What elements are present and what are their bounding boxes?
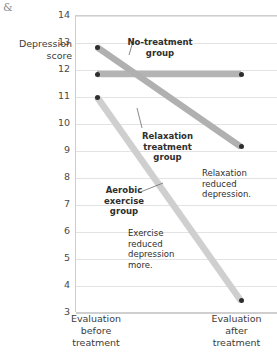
y-axis-tick-label: 4	[44, 280, 70, 290]
annotation-exercise-note: Exercise reduced depression more.	[128, 228, 198, 270]
annotation-aerobic-line-1: Aerobic	[93, 185, 155, 196]
y-axis-tick-label: 11	[44, 91, 70, 101]
chart-figure: & Depression score 14131211109876543 No-…	[0, 0, 277, 354]
ampersand-glyph: &	[3, 2, 13, 13]
annotation-relaxation-line-2: treatment	[130, 142, 205, 153]
annotation-exercise-note-line-1: Exercise	[128, 228, 198, 239]
annotation-aerobic-line-2: exercise	[93, 196, 155, 207]
y-axis-tick-label: 5	[44, 253, 70, 263]
y-axis-tick-label: 8	[44, 172, 70, 182]
annotation-relaxation-note-line-1: Relaxation	[202, 168, 276, 179]
y-axis-tick-label: 12	[44, 64, 70, 74]
x-axis-label-after: Evaluation after treatment	[196, 313, 277, 349]
annotation-aerobic: Aerobic exercise group	[93, 185, 155, 217]
annotation-relaxation: Relaxation treatment group	[130, 131, 205, 163]
annotation-relaxation-note-line-2: reduced	[202, 179, 276, 190]
annotation-relaxation-note: Relaxation reduced depression.	[202, 168, 276, 200]
annotation-exercise-note-line-3: depression	[128, 249, 198, 260]
annotation-exercise-note-line-4: more.	[128, 260, 198, 271]
x-axis-label-after-line-3: treatment	[196, 337, 277, 349]
y-axis-tick-label: 13	[44, 37, 70, 47]
x-axis-label-after-line-1: Evaluation	[196, 313, 277, 325]
x-axis-label-before-line-2: before	[52, 325, 140, 337]
annotation-relaxation-line-3: group	[130, 152, 205, 163]
annotation-relaxation-note-line-3: depression.	[202, 189, 276, 200]
annotation-no-treatment: No-treatment group	[112, 37, 208, 58]
annotation-no-treatment-line-1: No-treatment	[112, 37, 208, 48]
x-axis-label-before-line-3: treatment	[52, 337, 140, 349]
x-axis-label-after-line-2: after	[196, 325, 277, 337]
y-axis-tick-label: 6	[44, 226, 70, 236]
y-axis-tick-label: 7	[44, 199, 70, 209]
annotation-relaxation-line-1: Relaxation	[130, 131, 205, 142]
y-axis-tick-label: 10	[44, 118, 70, 128]
x-axis-label-before: Evaluation before treatment	[52, 313, 140, 349]
annotation-aerobic-line-3: group	[93, 206, 155, 217]
annotation-exercise-note-line-2: reduced	[128, 239, 198, 250]
y-axis-tick-label: 14	[44, 10, 70, 20]
x-axis-label-before-line-1: Evaluation	[52, 313, 140, 325]
y-axis-title-line-2: score	[0, 50, 72, 62]
annotation-no-treatment-line-2: group	[112, 48, 208, 59]
y-axis-tick-label: 9	[44, 145, 70, 155]
